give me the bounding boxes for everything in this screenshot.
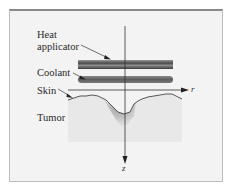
coolant-label: Coolant — [37, 67, 70, 78]
heat-applicator-label-line2: applicator — [37, 41, 79, 52]
coolant-bar — [78, 76, 173, 83]
heat-applicator-label-line1: Heat — [37, 29, 57, 40]
heat-applicator-bar — [78, 60, 173, 69]
skin-label: Skin — [37, 85, 56, 96]
z-axis — [123, 26, 128, 164]
r-axis-label: r — [191, 84, 195, 94]
z-axis-label: z — [122, 163, 126, 173]
tumor-label: Tumor — [37, 112, 65, 123]
r-axis — [68, 88, 189, 93]
leader-heat — [81, 45, 111, 60]
diagram-canvas — [0, 0, 234, 191]
